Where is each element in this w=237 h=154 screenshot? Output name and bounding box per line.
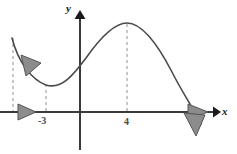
- x-axis-arrowhead-icon: [213, 107, 221, 118]
- function-curve: [12, 23, 201, 124]
- tick-label-neg3: -3: [38, 116, 46, 126]
- graph-figure: y x -3 4: [0, 0, 237, 154]
- y-axis-label: y: [66, 3, 71, 14]
- marker-curve-descending-right-icon: [184, 113, 205, 136]
- marker-axis-right-left-region-icon: [18, 104, 36, 120]
- tick-label-4: 4: [124, 117, 129, 127]
- direction-markers: [18, 55, 208, 136]
- x-axis-label: x: [222, 106, 228, 117]
- marker-curve-descending-left-icon: [21, 55, 41, 76]
- plot-canvas: [0, 0, 237, 154]
- y-axis: [75, 10, 86, 150]
- y-axis-arrowhead-icon: [75, 10, 86, 19]
